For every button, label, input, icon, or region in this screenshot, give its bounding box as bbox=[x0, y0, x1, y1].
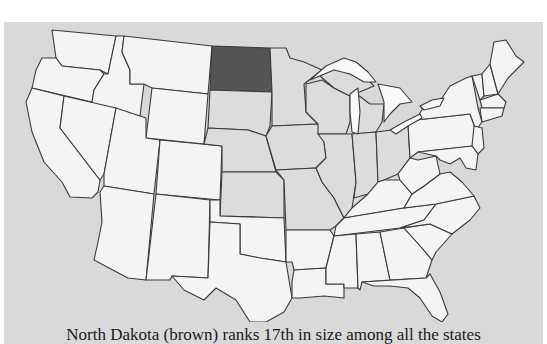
state-iowa[interactable] bbox=[266, 124, 326, 170]
state-new-mexico[interactable] bbox=[146, 194, 210, 280]
us-map bbox=[4, 22, 543, 322]
lake-michigan bbox=[350, 88, 360, 134]
map-frame: North Dakota (brown) ranks 17th in size … bbox=[4, 22, 543, 344]
state-north-dakota[interactable] bbox=[210, 46, 272, 92]
state-kansas[interactable] bbox=[220, 172, 284, 218]
state-wyoming[interactable] bbox=[146, 88, 208, 144]
state-connecticut-ri[interactable] bbox=[480, 108, 504, 122]
state-florida[interactable] bbox=[362, 274, 448, 322]
state-colorado[interactable] bbox=[156, 140, 222, 200]
map-caption: North Dakota (brown) ranks 17th in size … bbox=[4, 325, 543, 344]
state-arizona[interactable] bbox=[94, 186, 154, 280]
